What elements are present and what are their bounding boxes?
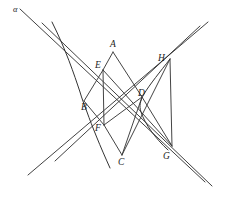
asymptote-asymptote-beta [42,23,212,186]
label-B: B [81,103,87,113]
label-H: H [158,54,165,64]
label-alpha: α [13,5,17,14]
label-F: F [95,124,101,134]
curve-left-branch [52,22,110,168]
chord-B-E [84,70,103,101]
label-D: D [138,89,145,99]
asymptote-lines [20,9,212,186]
geometry-figure: αAEHDBFCG [0,0,225,205]
chord-C-D [122,97,142,155]
curve-right-branch [140,59,170,150]
chord-H-G [170,59,172,146]
chord-F-C [104,125,122,155]
label-G: G [163,152,170,162]
label-C: C [118,158,124,168]
label-A: A [110,40,116,50]
asymptote-asymptote-delta [55,26,200,161]
chord-A-E [103,52,113,70]
asymptote-asymptote-alpha [20,9,205,182]
asymptote-asymptote-gamma [28,22,208,175]
label-E: E [95,61,101,71]
figure-canvas [0,0,225,205]
